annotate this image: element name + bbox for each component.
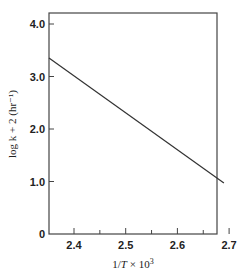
y-tick-label: 2.0 — [30, 123, 45, 135]
y-tick-label: 0 — [39, 228, 45, 240]
y-tick-label: 3.0 — [30, 71, 45, 83]
x-axis-label: 1/T × 103 — [112, 257, 153, 270]
series-line — [49, 58, 224, 183]
y-tick-label: 1.0 — [30, 176, 45, 188]
x-tick-label: 2.4 — [66, 239, 82, 251]
x-tick-label: 2.7 — [221, 239, 236, 251]
y-axis-ticks: 01.02.03.04.0 — [30, 18, 54, 240]
x-axis-ticks: 2.42.52.62.7 — [66, 228, 236, 251]
chart: 01.02.03.04.0 2.42.52.62.7 1/T × 103 log… — [0, 0, 247, 273]
plot-frame — [49, 13, 217, 234]
y-axis-label: log k + 2 (hr⁻¹) — [6, 90, 19, 158]
y-tick-label: 4.0 — [30, 18, 45, 30]
x-tick-label: 2.5 — [118, 239, 133, 251]
x-tick-label: 2.6 — [170, 239, 185, 251]
data-series — [49, 58, 224, 183]
